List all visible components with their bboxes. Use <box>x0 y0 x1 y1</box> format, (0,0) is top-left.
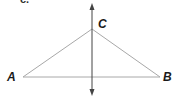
label-b: B <box>163 70 172 84</box>
triangle-diagram: c. A B C <box>0 0 175 97</box>
label-c: C <box>98 17 107 31</box>
arrow-up-icon <box>90 3 95 10</box>
part-label: c. <box>20 0 29 5</box>
arrow-down-icon <box>90 89 95 96</box>
perpendicular-bisector <box>90 3 95 96</box>
segment-ac <box>23 29 92 77</box>
segment-cb <box>92 29 160 77</box>
label-a: A <box>6 70 16 84</box>
